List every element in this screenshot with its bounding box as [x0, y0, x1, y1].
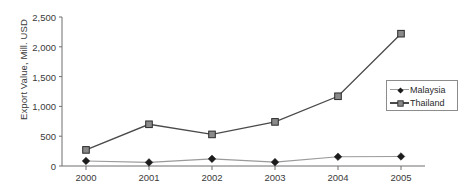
data-point-malaysia-2004 [334, 153, 342, 161]
data-point-thailand-2000 [83, 147, 90, 154]
legend: Malaysia Thailand [386, 80, 458, 111]
legend-label-thailand: Thailand [409, 98, 445, 108]
data-point-malaysia-2003 [271, 158, 279, 166]
figure-caption [0, 188, 471, 196]
data-point-malaysia-2002 [208, 155, 216, 163]
data-point-malaysia-2001 [145, 159, 153, 167]
data-point-thailand-2002 [209, 131, 216, 138]
legend-swatch-thailand [390, 97, 409, 108]
data-point-malaysia-2000 [82, 157, 90, 165]
data-point-thailand-2001 [146, 121, 153, 128]
data-point-thailand-2005 [398, 30, 405, 37]
data-point-malaysia-2005 [397, 153, 405, 161]
data-point-thailand-2003 [272, 119, 279, 126]
legend-item-thailand: Thailand [390, 96, 454, 109]
legend-item-malaysia: Malaysia [390, 83, 454, 96]
series-line-thailand [86, 34, 401, 150]
data-point-thailand-2004 [335, 93, 342, 100]
series-line-malaysia [86, 156, 401, 162]
line-chart: Export Value, Mill. USD 2,500 2,000 1,50… [0, 0, 471, 196]
legend-label-malaysia: Malaysia [409, 85, 446, 95]
legend-swatch-malaysia [390, 84, 409, 95]
